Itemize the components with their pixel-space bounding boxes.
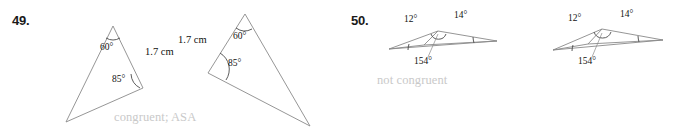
angle-label-12: 12° <box>568 13 581 23</box>
internal-segment <box>588 29 602 44</box>
right-upper-side <box>602 29 663 40</box>
baseline <box>553 40 663 50</box>
left-upper-side <box>553 29 602 50</box>
answer-key-page: 49. 60° 85° 1.7 cm 60° 85° 1.7 cm congru… <box>0 0 678 133</box>
angle-label-154: 154° <box>578 56 596 66</box>
answer-label-50: not congruent <box>377 73 447 88</box>
angle-label-14: 14° <box>620 9 633 19</box>
